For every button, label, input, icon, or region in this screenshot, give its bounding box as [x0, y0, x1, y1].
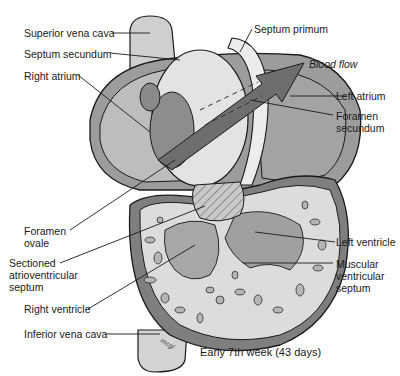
label-muscular-ventricular-septum: Muscular ventricular septum [336, 258, 384, 294]
label-inferior-vena-cava: Inferior vena cava [24, 328, 107, 340]
label-septum-primum: Septum primum [254, 23, 328, 35]
label-left-ventricle: Left ventricle [336, 236, 396, 248]
sectioned-av-septum-shape [192, 182, 244, 221]
label-left-atrium: Left atrium [336, 90, 386, 102]
label-blood-flow: Blood flow [309, 58, 357, 70]
label-superior-vena-cava: Superior vena cava [24, 27, 114, 39]
label-foramen-ovale: Foramen ovale [24, 225, 66, 249]
heart-diagram: mcgl Superior vena cava Septum secundum … [0, 0, 400, 376]
label-sectioned-av-septum: Sectioned atrioventricular septum [9, 257, 78, 293]
figure-caption: Early 7th week (43 days) [200, 346, 321, 358]
right-atrium-opening [140, 83, 160, 111]
label-right-atrium: Right atrium [24, 70, 81, 82]
label-right-ventricle: Right ventricle [24, 303, 91, 315]
label-septum-secundum: Septum secundum [24, 48, 112, 60]
label-foramen-secundum: Foramen secundum [336, 110, 384, 134]
